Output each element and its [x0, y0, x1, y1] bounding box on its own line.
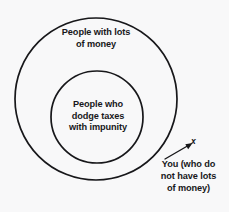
- inner-set-label: People who dodge taxes with impunity: [52, 99, 144, 134]
- outer-set-label: People with lots of money: [20, 27, 172, 50]
- x-point-marker: x: [191, 136, 196, 146]
- venn-diagram-figure: People with lots of money People who dod…: [0, 0, 229, 212]
- pointer-arrow: [165, 143, 193, 159]
- you-caption-label: You (who do not have lots of money): [148, 158, 229, 194]
